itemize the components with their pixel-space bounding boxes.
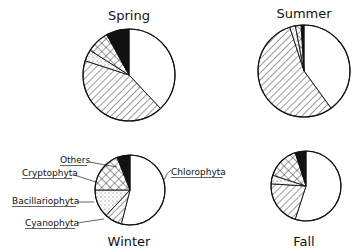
legend-label-chlorophyta: Chlorophyta: [171, 167, 226, 177]
legend-chlorophyta: Chlorophyta: [164, 167, 226, 180]
legend-others: Others: [60, 155, 117, 167]
pie-winter: [95, 155, 165, 225]
pie-summer: [258, 25, 350, 117]
legend-label-others: Others: [60, 155, 91, 165]
legend-cryptophyta: Cryptophyta: [22, 168, 96, 182]
pie-fall: [271, 151, 341, 221]
phytoplankton-seasonal-pies: Spring Summer Winter Fall Others Cryptop…: [0, 0, 356, 252]
legend-cyanophyta: Cyanophyta: [25, 218, 104, 229]
legend-label-bacillariophyta: Bacillariophyta: [12, 196, 79, 206]
pie-spring: [83, 29, 175, 121]
title-winter: Winter: [108, 234, 152, 249]
title-spring: Spring: [108, 8, 150, 23]
legend-label-cyanophyta: Cyanophyta: [25, 218, 79, 228]
legend-label-cryptophyta: Cryptophyta: [22, 168, 78, 178]
legend-bacillariophyta: Bacillariophyta: [12, 196, 94, 207]
title-summer: Summer: [276, 6, 332, 21]
title-fall: Fall: [293, 234, 314, 249]
